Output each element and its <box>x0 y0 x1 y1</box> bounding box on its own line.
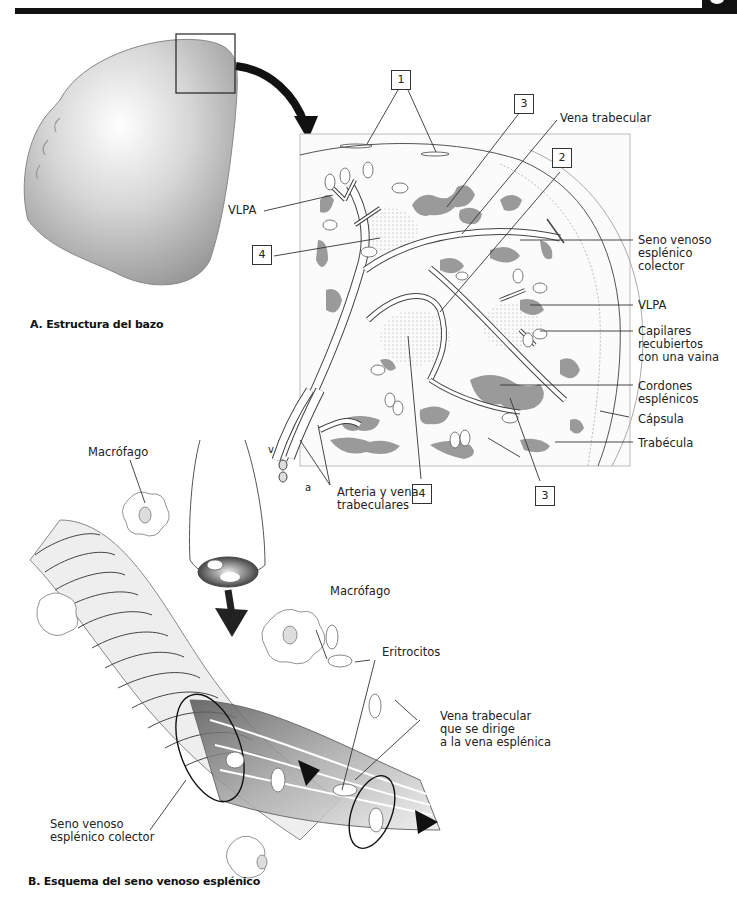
flow-arrow-down <box>215 608 248 637</box>
label-seno-venoso-colector: Seno venoso esplénico colector <box>50 818 154 844</box>
label-v: v <box>268 443 274 456</box>
label-box-3-top: 3 <box>514 94 534 114</box>
panel-b-caption: B. Esquema del seno venoso esplénico <box>28 875 260 888</box>
label-box-1: 1 <box>391 70 411 90</box>
spleen-organ <box>24 39 237 284</box>
label-capsula: Cápsula <box>638 413 684 426</box>
spleen-detail-section <box>276 134 643 482</box>
label-seno-venoso: Seno venoso esplénico colector <box>638 234 712 273</box>
label-a: a <box>305 481 311 494</box>
label-capilares: Capilares recubiertos con una vaina <box>638 325 719 364</box>
label-eritrocitos: Eritrocitos <box>382 646 440 659</box>
panel-a-caption: A. Estructura del bazo <box>30 318 163 331</box>
label-trabecula: Trabécula <box>638 437 693 450</box>
label-macrofago-right: Macrófago <box>330 585 390 598</box>
label-box-4-left: 4 <box>252 245 272 265</box>
label-box-3-bottom: 3 <box>535 486 555 506</box>
label-vena-trabecular: Vena trabecular <box>560 112 651 125</box>
label-vlpa-right: VLPA <box>638 299 666 312</box>
label-cordones: Cordones esplénicos <box>638 380 698 406</box>
label-vena-trabecular-dirige: Vena trabecular que se dirige a la vena … <box>440 710 551 749</box>
label-arteria-vena: Arteria y vena trabeculares <box>337 486 418 512</box>
label-box-2: 2 <box>552 148 572 168</box>
label-vlpa-left: VLPA <box>228 204 256 217</box>
label-macrofago-left: Macrófago <box>88 446 148 459</box>
